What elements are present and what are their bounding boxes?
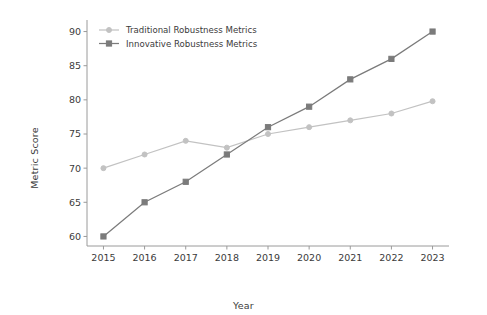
x-axis-tick-label: 2019	[256, 252, 280, 263]
legend-label: Traditional Robustness Metrics	[125, 25, 257, 35]
chart-canvas: 6065707580859020152016201720182019202020…	[57, 16, 455, 278]
data-point-marker	[183, 179, 188, 184]
data-point-marker	[389, 56, 394, 61]
x-axis-tick-label: 2020	[297, 252, 321, 263]
y-axis-tick-label: 65	[69, 197, 81, 208]
x-axis-tick-label: 2018	[215, 252, 239, 263]
x-axis-tick-label: 2016	[132, 252, 156, 263]
data-point-marker	[224, 145, 229, 150]
data-point-marker	[307, 125, 312, 130]
data-point-marker	[224, 152, 229, 157]
data-point-marker	[265, 125, 270, 130]
y-axis-label: Metric Score	[29, 127, 40, 189]
y-axis-tick-label: 60	[69, 231, 81, 242]
series-1	[101, 99, 435, 171]
y-axis-tick-label: 80	[69, 94, 81, 105]
y-axis-tick-label: 70	[69, 163, 81, 174]
x-axis-tick-label: 2015	[91, 252, 115, 263]
legend-marker	[107, 28, 112, 33]
plot-area: 6065707580859020152016201720182019202020…	[57, 16, 455, 278]
data-point-marker	[142, 152, 147, 157]
data-point-marker	[307, 104, 312, 109]
data-point-marker	[430, 29, 435, 34]
legend-label: Innovative Robustness Metrics	[126, 39, 258, 49]
x-axis-tick-label: 2021	[338, 252, 362, 263]
x-axis-label: Year	[0, 300, 487, 311]
data-point-marker	[348, 77, 353, 82]
x-axis-tick-label: 2017	[174, 252, 198, 263]
data-point-marker	[183, 138, 188, 143]
data-point-marker	[142, 200, 147, 205]
data-point-marker	[430, 99, 435, 104]
data-point-marker	[101, 166, 106, 171]
x-axis-tick-label: 2022	[379, 252, 403, 263]
data-point-marker	[266, 132, 271, 137]
y-axis-tick-label: 90	[69, 26, 81, 37]
legend-marker	[106, 41, 111, 46]
legend-item-1[interactable]: Traditional Robustness Metrics	[99, 25, 257, 35]
y-axis-tick-label: 85	[69, 60, 81, 71]
x-axis-tick-label: 2023	[420, 252, 444, 263]
y-axis-tick-label: 75	[69, 128, 81, 139]
legend-item-2[interactable]: Innovative Robustness Metrics	[99, 39, 258, 49]
data-point-marker	[101, 234, 106, 239]
data-point-marker	[389, 111, 394, 116]
data-point-marker	[348, 118, 353, 123]
line-chart: Metric Score Year 6065707580859020152016…	[0, 0, 487, 315]
